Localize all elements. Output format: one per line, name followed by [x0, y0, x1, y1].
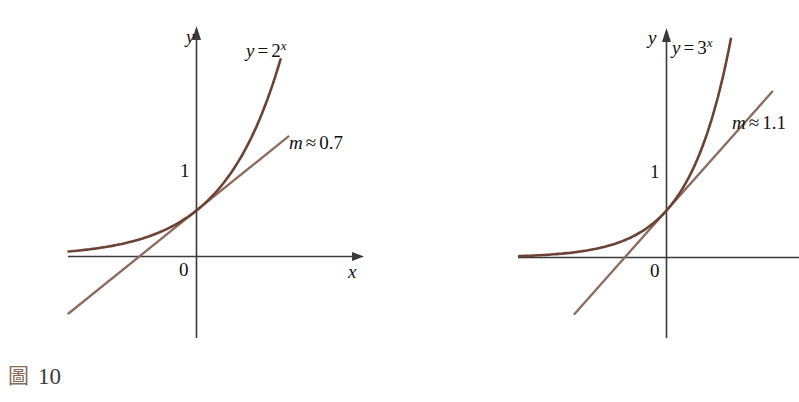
curve-eq-exponent: x	[281, 38, 287, 53]
curve-eq-base: 2	[271, 40, 281, 61]
origin-label: 0	[179, 260, 189, 279]
y-axis	[192, 26, 201, 338]
figure-panel-10: y x 1 0 y=2x m≈0.7 圖 10	[0, 0, 400, 402]
x-axis	[68, 252, 364, 261]
curve-equation-label: y=2x	[246, 40, 286, 60]
curve-3-to-the-x	[519, 39, 731, 256]
y-axis-label: y	[648, 28, 656, 47]
slope-value: 0.7	[319, 132, 343, 153]
figure-panel-11: y 1 0 y=3x m≈1.1 圖 11	[400, 0, 799, 402]
origin-label: 0	[650, 261, 660, 280]
curve-eq-lhs: y	[672, 37, 680, 58]
curve-eq-exponent: x	[707, 35, 713, 50]
slope-symbol: m	[732, 112, 746, 133]
slope-value: 1.1	[762, 112, 786, 133]
curve-2-to-the-x	[69, 59, 281, 251]
curve-eq-equals: =	[683, 37, 694, 58]
figure-number: 10	[38, 365, 61, 388]
slope-symbol: m	[289, 132, 303, 153]
slope-relation: ≈	[749, 112, 759, 133]
plot-area-3x	[400, 0, 799, 402]
figure-caption-10: 圖 10	[8, 365, 61, 388]
tangent-slope-label: m≈0.7	[289, 133, 343, 152]
x-axis-label: x	[348, 262, 356, 281]
y-axis-label: y	[186, 27, 194, 46]
y-tick-one: 1	[650, 162, 660, 181]
curve-eq-base: 3	[697, 37, 707, 58]
slope-relation: ≈	[306, 132, 316, 153]
curve-eq-lhs: y	[246, 40, 254, 61]
curve-equation-label: y=3x	[672, 37, 712, 57]
tangent-line-0-7	[69, 136, 289, 313]
plot-area-2x	[0, 0, 400, 402]
figure-icon: 圖	[8, 366, 29, 387]
y-axis	[662, 28, 671, 338]
y-tick-one: 1	[180, 161, 190, 180]
tangent-slope-label: m≈1.1	[732, 113, 786, 132]
curve-eq-equals: =	[257, 40, 268, 61]
